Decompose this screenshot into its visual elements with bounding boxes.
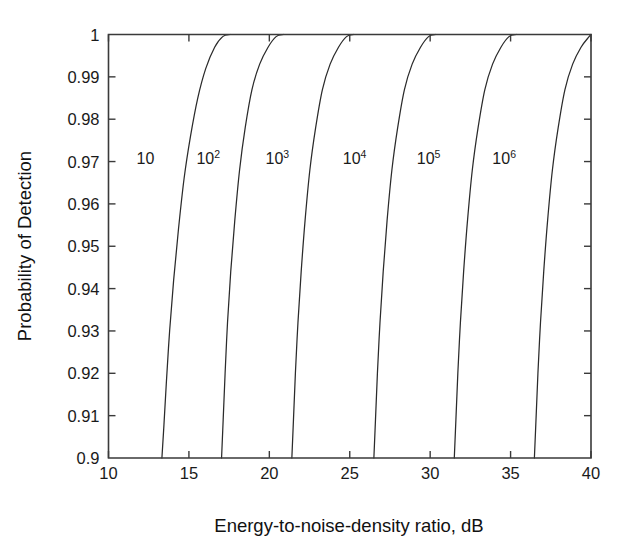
y-tick-label: 0.94 [67,280,99,298]
data-curve [222,35,284,459]
x-axis-tick-labels: 10152025303540 [99,464,600,482]
x-tick-label: 10 [99,464,117,482]
y-tick-label: 0.93 [67,322,99,340]
y-tick-label: 0.9 [77,449,100,467]
curve-inline-labels: 10102103104105106 [137,148,517,167]
curve-label: 106 [492,148,516,167]
y-tick-label: 0.92 [67,364,99,382]
y-tick-label: 0.97 [67,153,99,171]
y-tick-label: 0.95 [67,237,99,255]
data-curve [454,35,516,459]
y-tick-label: 1 [90,26,99,44]
curve-label: 102 [196,148,220,167]
detection-probability-chart: 10152025303540 0.90.910.920.930.940.950.… [0,0,631,546]
y-tick-label: 0.99 [67,68,99,86]
y-axis-tick-labels: 0.90.910.920.930.940.950.960.970.980.991 [67,26,99,468]
x-tick-label: 35 [501,464,519,482]
x-tick-label: 25 [341,464,359,482]
curve-label: 103 [266,148,290,167]
data-curve [162,35,230,459]
curve-label: 104 [343,148,367,167]
x-tick-label: 20 [260,464,278,482]
x-axis-title: Energy-to-noise-density ratio, dB [214,515,483,536]
curve-label: 10 [137,150,155,167]
x-tick-label: 40 [582,464,600,482]
plot-canvas: 10152025303540 0.90.910.920.930.940.950.… [0,0,631,546]
data-curve [534,35,591,459]
y-tick-label: 0.96 [67,195,99,213]
plot-border [109,35,592,459]
x-tick-label: 30 [421,464,439,482]
axes-group [109,35,592,459]
y-tick-label: 0.98 [67,110,99,128]
y-axis-title: Probability of Detection [14,151,35,341]
y-tick-label: 0.91 [67,407,99,425]
x-tick-label: 15 [180,464,198,482]
data-curve [374,35,436,459]
data-curve [292,35,354,459]
curves-group [162,35,591,459]
curve-label: 105 [417,148,441,167]
